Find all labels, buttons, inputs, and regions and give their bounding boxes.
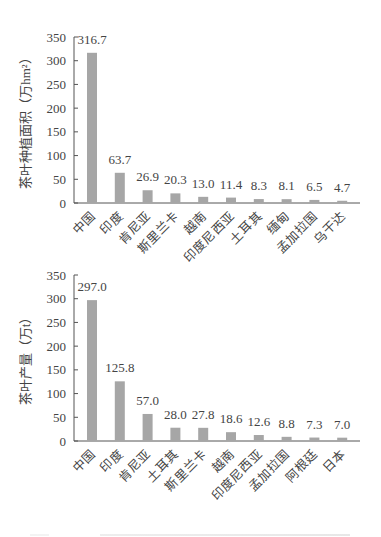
bar [254,435,264,441]
data-label: 11.4 [220,177,243,192]
bar [282,199,292,203]
y-tick-label: 150 [47,124,67,139]
bar [337,201,347,203]
y-axis-title: 茶叶种植面积（万hm²） [18,51,33,189]
y-tick-label: 350 [47,268,67,283]
bar [143,414,153,441]
data-label: 6.5 [306,179,322,194]
bar [115,173,125,203]
y-tick-label: 0 [60,196,67,211]
data-label: 18.6 [220,411,243,426]
y-tick-label: 100 [47,386,67,401]
bar [198,197,208,203]
data-label: 63.7 [108,152,131,167]
bar [198,428,208,441]
data-label: 20.3 [164,172,187,187]
bar [309,200,319,203]
chart-figure: 050100150200250300350茶叶种植面积（万hm²）316.7中国… [0,0,381,537]
y-tick-label: 0 [60,434,67,449]
bar [115,381,125,441]
bar [170,193,180,203]
y-tick-label: 200 [47,339,67,354]
y-tick-label: 250 [47,315,67,330]
data-label: 13.0 [192,176,215,191]
data-label: 8.3 [251,178,267,193]
data-label: 7.3 [306,417,322,432]
category-label: 乌干达 [310,209,348,247]
y-tick-label: 150 [47,362,67,377]
data-label: 8.8 [278,416,294,431]
bar [337,438,347,441]
data-label: 125.8 [105,360,134,375]
data-label: 27.8 [192,407,215,422]
y-tick-label: 300 [47,291,67,306]
data-label: 8.1 [278,178,294,193]
y-tick-label: 300 [47,53,67,68]
y-tick-label: 100 [47,148,67,163]
bar [282,437,292,441]
bar [254,199,264,203]
planting-area-chart: 050100150200250300350茶叶种植面积（万hm²）316.7中国… [18,30,360,266]
y-tick-label: 200 [47,101,67,116]
data-label: 57.0 [136,393,159,408]
category-label: 阿根廷 [283,447,320,484]
y-tick-label: 50 [53,172,66,187]
y-tick-label: 250 [47,77,67,92]
category-label: 土耳其 [227,209,264,246]
bar [226,198,236,203]
data-label: 4.7 [334,180,351,195]
bar [170,428,180,441]
bar [87,300,97,441]
figure-caption-clipped [30,534,350,536]
data-label: 28.0 [164,407,187,422]
data-label: 12.6 [247,414,270,429]
bar [309,438,319,441]
y-tick-label: 50 [53,410,66,425]
category-label: 中国 [69,209,98,238]
data-label: 7.0 [334,417,350,432]
data-label: 297.0 [77,279,106,294]
category-label: 中国 [69,447,98,476]
y-axis-title: 茶叶产量（万t） [18,311,33,406]
category-label: 日本 [320,447,348,475]
data-label: 316.7 [77,32,107,47]
production-chart: 050100150200250300350茶叶产量（万t）297.0中国125.… [18,268,360,504]
bar [143,190,153,203]
bar [226,432,236,441]
bar [87,53,97,203]
data-label: 26.9 [136,169,159,184]
y-tick-label: 350 [47,30,67,45]
